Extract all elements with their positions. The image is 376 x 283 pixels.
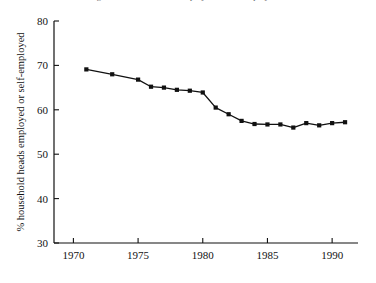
- x-axis-ticks: 19701975198019851990: [62, 238, 343, 261]
- y-axis-title: % household heads employed or self-emplo…: [15, 32, 26, 232]
- y-tick-label-70: 70: [37, 59, 49, 71]
- data-point: [330, 121, 334, 125]
- data-point: [110, 72, 114, 76]
- x-tick-label-1975: 1975: [127, 249, 150, 261]
- data-point: [227, 112, 231, 116]
- y-tick-label-60: 60: [37, 104, 49, 116]
- x-tick-label-1970: 1970: [62, 249, 85, 261]
- line-chart: 304050607080 19701975198019851990 % hous…: [0, 0, 376, 283]
- data-point: [84, 67, 88, 71]
- y-tick-label-80: 80: [37, 15, 49, 27]
- x-tick-label-1980: 1980: [192, 249, 215, 261]
- series-line: [86, 69, 345, 127]
- data-point: [291, 125, 295, 129]
- data-point: [252, 122, 256, 126]
- data-point: [214, 105, 218, 109]
- data-point: [201, 90, 205, 94]
- y-axis-ticks: 304050607080: [37, 15, 59, 249]
- data-point: [317, 123, 321, 127]
- cropped-caption-text: Percentage of household heads employed o…: [66, 0, 278, 1]
- data-point: [265, 122, 269, 126]
- data-point: [175, 88, 179, 92]
- figure-panel: Percentage of household heads employed o…: [0, 0, 376, 283]
- data-point: [162, 86, 166, 90]
- data-point: [304, 121, 308, 125]
- data-point: [149, 85, 153, 89]
- data-point: [188, 89, 192, 93]
- cropped-caption-bleed: Percentage of household heads employed o…: [0, 0, 376, 6]
- y-tick-label-30: 30: [37, 237, 49, 249]
- data-point: [343, 120, 347, 124]
- x-tick-label-1990: 1990: [321, 249, 344, 261]
- data-point: [239, 119, 243, 123]
- y-tick-label-50: 50: [37, 148, 49, 160]
- data-point: [278, 122, 282, 126]
- y-tick-label-40: 40: [37, 193, 49, 205]
- x-tick-label-1985: 1985: [256, 249, 279, 261]
- data-point: [136, 78, 140, 82]
